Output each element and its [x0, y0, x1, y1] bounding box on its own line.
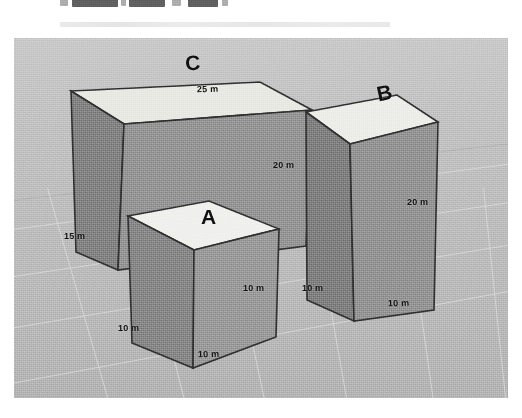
box-b-dim-height: 20 m	[407, 197, 428, 207]
box-b-front-face	[350, 122, 438, 321]
left-page-margin	[0, 16, 14, 418]
box-a-dim-width: 10 m	[198, 349, 220, 360]
box-a-dim-depth: 10 m	[118, 323, 139, 333]
box-a-dim-height: 10 m	[243, 283, 264, 293]
scanned-page: C 25 m 20 m 15 m B 20 m 10 m 10 m A 10 m…	[0, 0, 522, 418]
box-b	[306, 95, 438, 321]
box-b-dim-width: 10 m	[388, 298, 410, 309]
box-a-label: A	[201, 205, 216, 229]
bottom-page-margin	[0, 398, 522, 418]
prisms-group	[14, 38, 508, 398]
faint-text-line	[60, 22, 390, 27]
box-c-dim-width: 25 m	[197, 84, 219, 95]
cropped-text-fragments	[0, 0, 522, 16]
right-page-margin	[508, 16, 522, 418]
box-b-dim-depth: 10 m	[302, 283, 323, 293]
figure-image: C 25 m 20 m 15 m B 20 m 10 m 10 m A 10 m…	[14, 38, 508, 398]
box-c-label: C	[184, 51, 200, 76]
box-c-dim-height: 20 m	[273, 160, 294, 170]
box-c-dim-depth: 15 m	[64, 231, 85, 241]
box-a-front-face	[193, 229, 279, 368]
